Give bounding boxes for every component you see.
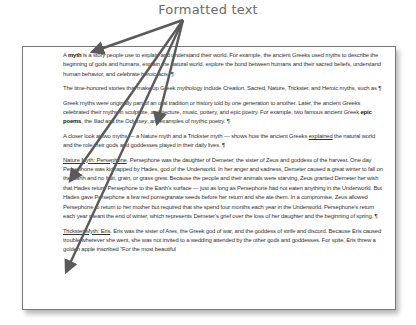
document-paragraph: Nature Myth: Persephone. Persephone was … [63, 156, 383, 222]
paragraph-mark: ¶ [222, 142, 225, 148]
document-paragraph: Trickster Myth: Eris. Eris was the siste… [63, 227, 383, 255]
formatted-text-run: Trickster Myth: Eris [63, 228, 110, 234]
text-run: Greek myths were originally part of an o… [63, 100, 360, 115]
paragraph-mark: ¶ [227, 118, 230, 124]
formatted-text-run: Odyssey [125, 118, 147, 124]
callout-title: Formatted text [0, 2, 416, 17]
paragraph-mark: ¶ [378, 85, 381, 91]
text-run: , the [81, 118, 93, 124]
document-page: A myth is a story people use to explain … [22, 46, 396, 310]
paragraph-mark: ¶ [171, 71, 174, 77]
document-paragraph: The time-honored stories that make up Gr… [63, 84, 383, 93]
text-run: The time-honored stories that make up Gr… [63, 85, 378, 91]
document-paragraph: A myth is a story people use to explain … [63, 51, 383, 79]
document-paragraph: A closer look at two myths — a Nature my… [63, 132, 383, 151]
text-run: A closer look at two myths — a Nature my… [63, 133, 309, 139]
formatted-text-run: Iliad [93, 118, 103, 124]
paragraph-mark: ¶ [375, 213, 378, 219]
formatted-text-run: Nature Myth: Persephone [63, 157, 127, 163]
formatted-text-run: explained [309, 133, 333, 139]
text-run: . Persephone was the daughter of Demeter… [63, 157, 383, 219]
text-run: is a story people use to explain and und… [63, 52, 381, 77]
text-run: and the [104, 118, 126, 124]
document-body[interactable]: A myth is a story people use to explain … [63, 51, 383, 260]
formatted-text-run: myth [68, 52, 81, 58]
text-run: . Eris was the sister of Ares, the Greek… [63, 228, 381, 253]
document-paragraph: Greek myths were originally part of an o… [63, 99, 383, 127]
text-run: , are examples of mythic poetry. [147, 118, 227, 124]
